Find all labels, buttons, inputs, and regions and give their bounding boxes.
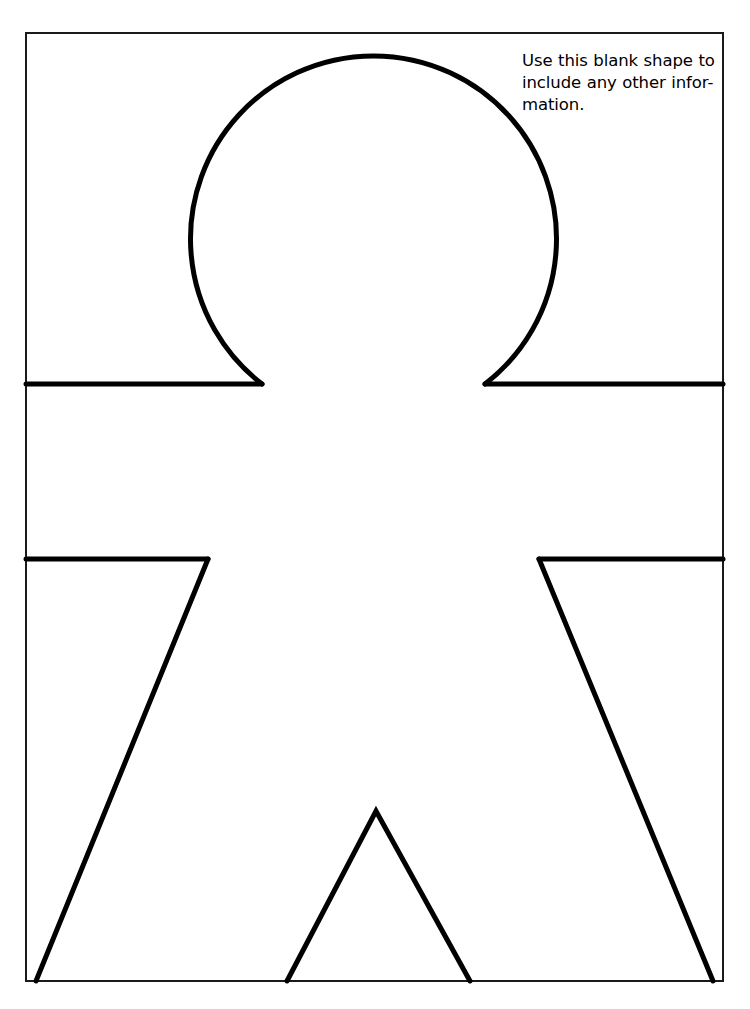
left-side-diagonal xyxy=(36,559,208,981)
worksheet-page: Use this blank shape to include any othe… xyxy=(0,0,750,1009)
instruction-line-3: mation. xyxy=(522,94,718,116)
instruction-line-1: Use this blank shape to xyxy=(522,50,718,72)
crotch-notch-path xyxy=(287,811,470,981)
instruction-text: Use this blank shape to include any othe… xyxy=(522,50,718,116)
head-outline-path xyxy=(190,56,556,384)
instruction-line-2: include any other infor- xyxy=(522,72,718,94)
right-side-diagonal xyxy=(539,559,713,981)
body-shape-figure xyxy=(0,0,750,1009)
worksheet-border-rect xyxy=(26,33,723,981)
